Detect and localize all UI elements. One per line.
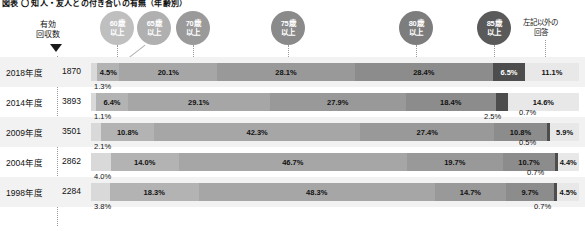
- callout-pre-2014年度: 1.1%: [94, 112, 111, 121]
- seg-60: 18.3%: [110, 183, 199, 201]
- stacked-bar: 6.4%29.1%27.9%18.4%14.6%: [91, 93, 579, 111]
- bubble-65-icon: 65歳 以上: [137, 11, 171, 45]
- seg-other: 11.1%: [525, 63, 579, 81]
- seg-80: 6.5%: [493, 63, 525, 81]
- leader-60: [117, 45, 118, 57]
- seg-60: 4.5%: [97, 63, 119, 81]
- leader-other: [545, 40, 546, 57]
- bubble-75-icon: 75歳 以上: [271, 11, 305, 45]
- page-title: 図表 〇 知人・友人との付き合いの有無（年齢別）: [2, 0, 187, 8]
- stacked-bar: 10.8%42.3%27.4%10.8%5.9%: [91, 123, 579, 141]
- down-arrow-icon: [50, 44, 62, 52]
- bubble-60-line2: 以上: [110, 28, 124, 37]
- row-sample-size: 3893: [62, 96, 81, 106]
- seg-75: 18.4%: [406, 93, 496, 111]
- bubble-70-line1: 70歳: [186, 19, 201, 28]
- leader-70: [193, 45, 194, 57]
- valid-responses-line1: 有効: [36, 20, 60, 30]
- seg-70: 27.4%: [360, 123, 494, 141]
- leader-65-slant: [129, 45, 145, 58]
- bubble-85-line1: 85歳: [487, 19, 502, 28]
- callout-80-2009年度: 0.7%: [519, 108, 536, 117]
- seg-65: 29.1%: [128, 93, 270, 111]
- valid-responses-line2: 回収数: [36, 30, 60, 40]
- row-year-label: 2014年度: [6, 96, 43, 108]
- seg-75: 9.7%: [506, 183, 553, 201]
- bubble-65-line2: 以上: [147, 28, 161, 37]
- row-sample-size: 3501: [62, 126, 81, 136]
- seg-pre: [91, 123, 101, 141]
- seg-60: 14.0%: [111, 153, 179, 171]
- table-row: 2018年度18704.5%20.1%28.1%28.4%6.5%11.1%: [0, 57, 585, 87]
- seg-65: 20.1%: [119, 63, 217, 81]
- seg-70: 27.9%: [270, 93, 406, 111]
- seg-other: 5.9%: [550, 123, 579, 141]
- seg-70: 14.7%: [435, 183, 507, 201]
- stacked-bar: 14.0%46.7%19.7%10.7%4.4%: [91, 153, 579, 171]
- seg-65: 46.7%: [179, 153, 407, 171]
- bubble-60-icon: 60歳 以上: [100, 11, 134, 45]
- callout-pre-2018年度: 1.3%: [94, 82, 111, 91]
- table-row: 1998年度228418.3%48.3%14.7%9.7%4.5%: [0, 177, 585, 207]
- seg-80: [496, 93, 508, 111]
- seg-65: 48.3%: [199, 183, 435, 201]
- seg-pre: [91, 183, 110, 201]
- bubble-80-line2: 以上: [409, 28, 423, 37]
- seg-75: 28.4%: [355, 63, 494, 81]
- seg-70: 28.1%: [217, 63, 354, 81]
- table-row: 2004年度286214.0%46.7%19.7%10.7%4.4%: [0, 147, 585, 177]
- bubble-70-icon: 70歳 以上: [176, 11, 210, 45]
- bubble-60-line1: 60歳: [110, 19, 125, 28]
- legend-other-responses: 左記以外の 回答: [523, 18, 558, 37]
- bubble-65-line1: 65歳: [147, 19, 162, 28]
- callout-80-1998年度: 0.7%: [527, 168, 544, 177]
- callout-pre-2009年度: 2.1%: [94, 142, 111, 151]
- bubble-85-icon: 85歳 以上: [477, 11, 511, 45]
- row-year-label: 2018年度: [6, 66, 43, 78]
- callout-80-2004年度: 0.5%: [519, 138, 536, 147]
- bubble-80-icon: 80歳 以上: [399, 11, 433, 45]
- bubble-75-line1: 75歳: [281, 19, 296, 28]
- chart-root: 図表 〇 知人・友人との付き合いの有無（年齢別） 60歳 以上 65歳 以上 7…: [0, 0, 585, 231]
- callout-pre-1998年度: 3.8%: [94, 202, 111, 211]
- table-row: 2009年度350110.8%42.3%27.4%10.8%5.9%: [0, 117, 585, 147]
- row-year-label: 2004年度: [6, 156, 43, 168]
- seg-pre: [91, 153, 111, 171]
- callout-pre-2004年度: 4.0%: [94, 172, 111, 181]
- stacked-bar: 18.3%48.3%14.7%9.7%4.5%: [91, 183, 579, 201]
- callout-80-2014年度: 2.5%: [484, 112, 501, 121]
- seg-other: 4.5%: [557, 183, 579, 201]
- seg-70: 19.7%: [407, 153, 503, 171]
- seg-60: 10.8%: [101, 123, 154, 141]
- seg-other: 4.4%: [558, 153, 579, 171]
- callout-80-bottom-1998年度: 0.7%: [534, 202, 551, 211]
- stacked-bar: 4.5%20.1%28.1%28.4%6.5%11.1%: [91, 63, 579, 81]
- legend-other-line2: 回答: [523, 28, 558, 38]
- leader-75: [288, 45, 289, 57]
- bubble-80-line1: 80歳: [409, 19, 424, 28]
- row-sample-size: 2862: [62, 156, 81, 166]
- bubble-70-line2: 以上: [186, 28, 200, 37]
- row-year-label: 1998年度: [6, 186, 43, 198]
- seg-60: 6.4%: [96, 93, 127, 111]
- leader-80: [416, 45, 417, 57]
- leader-85: [494, 45, 495, 57]
- row-sample-size: 2284: [62, 186, 81, 196]
- bubble-75-line2: 以上: [281, 28, 295, 37]
- valid-responses-note: 有効 回収数: [36, 20, 60, 40]
- seg-65: 42.3%: [154, 123, 360, 141]
- row-sample-size: 1870: [62, 66, 81, 76]
- legend-other-line1: 左記以外の: [523, 18, 558, 28]
- bubble-85-line2: 以上: [487, 28, 501, 37]
- row-year-label: 2009年度: [6, 126, 43, 138]
